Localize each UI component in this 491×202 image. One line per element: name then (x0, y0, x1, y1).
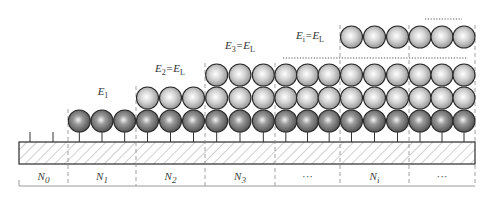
physisorbed-sphere (431, 87, 453, 109)
physisorbed-sphere (364, 26, 386, 48)
chemisorbed-sphere (252, 110, 274, 132)
physisorbed-sphere (318, 64, 340, 86)
chemisorbed-sphere (297, 110, 319, 132)
chemisorbed-sphere (341, 110, 363, 132)
physisorbed-sphere (409, 87, 431, 109)
chemisorbed-sphere (409, 110, 431, 132)
segment-label-6: ··· (437, 170, 448, 182)
physisorbed-sphere (206, 87, 228, 109)
physisorbed-sphere (387, 64, 409, 86)
energy-label-ei: Ei=EL (296, 29, 324, 44)
segment-label-1: N1 (96, 170, 108, 185)
chemisorbed-sphere (275, 110, 297, 132)
adsorption-diagram: E1E2=ELE3=ELEi=EL N0N1N2N3···Ni··· (0, 0, 491, 202)
sphere-stack (68, 26, 475, 142)
segment-label-2: N2 (165, 170, 177, 185)
physisorbed-sphere (341, 26, 363, 48)
chemisorbed-sphere (206, 110, 228, 132)
energy-label-e1: E1 (98, 85, 109, 100)
physisorbed-sphere (318, 87, 340, 109)
chemisorbed-sphere (431, 110, 453, 132)
chemisorbed-sphere (114, 110, 136, 132)
physisorbed-sphere (229, 64, 251, 86)
physisorbed-sphere (183, 87, 205, 109)
segment-label-4: ··· (302, 170, 313, 182)
chemisorbed-sphere (453, 110, 475, 132)
physisorbed-sphere (297, 64, 319, 86)
physisorbed-sphere (364, 64, 386, 86)
physisorbed-sphere (341, 64, 363, 86)
physisorbed-sphere (409, 26, 431, 48)
physisorbed-sphere (431, 26, 453, 48)
physisorbed-sphere (453, 64, 475, 86)
physisorbed-sphere (160, 87, 182, 109)
energy-label-e3: E3=EL (225, 39, 255, 54)
physisorbed-sphere (229, 87, 251, 109)
physisorbed-sphere (137, 87, 159, 109)
chemisorbed-sphere (229, 110, 251, 132)
physisorbed-sphere (387, 26, 409, 48)
energy-label-e2: E2=EL (155, 62, 185, 77)
chemisorbed-sphere (137, 110, 159, 132)
chemisorbed-sphere (318, 110, 340, 132)
physisorbed-sphere (453, 26, 475, 48)
chemisorbed-sphere (68, 110, 90, 132)
physisorbed-sphere (431, 64, 453, 86)
physisorbed-sphere (275, 64, 297, 86)
physisorbed-sphere (364, 87, 386, 109)
physisorbed-sphere (387, 87, 409, 109)
physisorbed-sphere (206, 64, 228, 86)
physisorbed-sphere (275, 87, 297, 109)
substrate (19, 142, 475, 164)
chemisorbed-sphere (387, 110, 409, 132)
physisorbed-sphere (341, 87, 363, 109)
chemisorbed-sphere (91, 110, 113, 132)
physisorbed-sphere (409, 64, 431, 86)
chemisorbed-sphere (183, 110, 205, 132)
physisorbed-sphere (252, 87, 274, 109)
physisorbed-sphere (453, 87, 475, 109)
segment-label-3: N3 (234, 170, 246, 185)
chemisorbed-sphere (364, 110, 386, 132)
physisorbed-sphere (297, 87, 319, 109)
segment-label-5: Ni (370, 170, 380, 185)
chemisorbed-sphere (160, 110, 182, 132)
segment-label-0: N0 (38, 170, 50, 185)
physisorbed-sphere (252, 64, 274, 86)
